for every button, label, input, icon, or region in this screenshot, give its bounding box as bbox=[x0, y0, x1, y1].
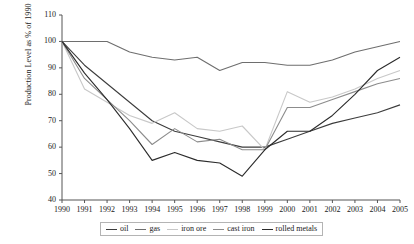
legend-item-label: iron ore bbox=[181, 225, 206, 233]
legend-line-swatch-icon bbox=[213, 229, 224, 230]
series-line-iron-ore bbox=[62, 41, 400, 149]
legend-item-label: cast iron bbox=[227, 225, 254, 233]
production-level-line-chart: Production Level as % of 1990 1101009080… bbox=[0, 0, 414, 244]
series-line-oil bbox=[62, 41, 400, 147]
legend-item-rolled-metals[interactable]: rolled metals bbox=[262, 225, 318, 233]
legend-item-label: oil bbox=[120, 225, 128, 233]
legend-line-swatch-icon bbox=[135, 229, 146, 230]
legend-line-swatch-icon bbox=[262, 229, 273, 230]
plot-area bbox=[0, 0, 414, 244]
legend-line-swatch-icon bbox=[106, 229, 117, 230]
legend-item-oil[interactable]: oil bbox=[106, 225, 128, 233]
legend-line-swatch-icon bbox=[167, 229, 178, 230]
legend-item-cast-iron[interactable]: cast iron bbox=[213, 225, 254, 233]
series-line-cast-iron bbox=[62, 41, 400, 149]
legend-item-label: gas bbox=[149, 225, 160, 233]
legend-item-label: rolled metals bbox=[276, 225, 318, 233]
legend-item-iron-ore[interactable]: iron ore bbox=[167, 225, 206, 233]
series-line-gas bbox=[62, 41, 400, 70]
chart-legend: oilgasiron orecast ironrolled metals bbox=[100, 222, 323, 236]
series-line-rolled-metals bbox=[62, 41, 400, 176]
legend-item-gas[interactable]: gas bbox=[135, 225, 160, 233]
data-series-group bbox=[62, 41, 400, 176]
